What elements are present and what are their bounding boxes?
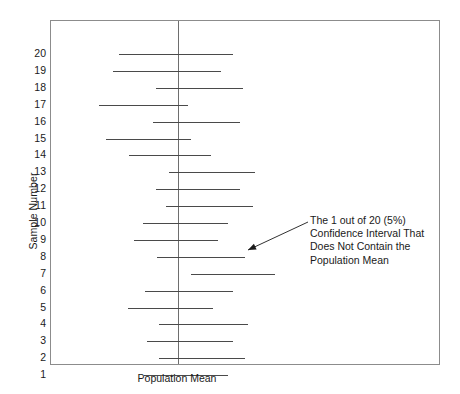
annotation-arrow-icon — [0, 0, 460, 394]
x-axis-title-label: Population Mean — [138, 372, 217, 384]
confidence-interval-chart: Sample Number 20191817161514131211109876… — [0, 0, 460, 394]
x-axis-title: Population Mean — [97, 372, 257, 384]
